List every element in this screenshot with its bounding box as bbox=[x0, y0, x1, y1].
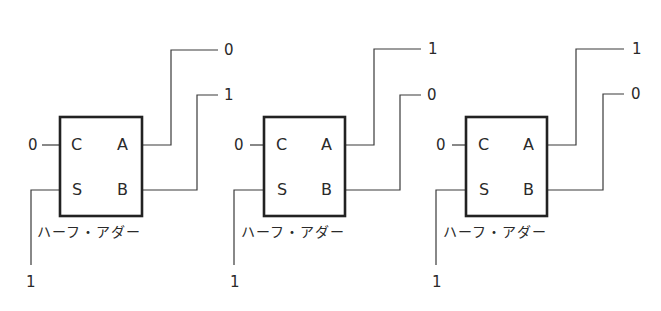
port-c-label: C bbox=[71, 137, 82, 153]
port-b-label: B bbox=[523, 182, 534, 198]
output-a-wire bbox=[548, 49, 624, 145]
output-b-value: 0 bbox=[427, 88, 437, 103]
output-b-wire bbox=[346, 95, 421, 190]
input-s-value: 1 bbox=[230, 275, 240, 290]
port-s-label: S bbox=[277, 182, 287, 198]
port-b-label: B bbox=[117, 182, 128, 198]
port-a-label: A bbox=[321, 137, 332, 153]
half-adder-box bbox=[60, 117, 142, 216]
port-s-label: S bbox=[72, 182, 82, 198]
port-a-label: A bbox=[523, 137, 534, 153]
port-c-label: C bbox=[478, 137, 489, 153]
diagram-canvas bbox=[0, 0, 661, 311]
port-s-label: S bbox=[479, 182, 489, 198]
input-c-value: 0 bbox=[28, 138, 38, 153]
input-s-value: 1 bbox=[26, 275, 36, 290]
output-b-value: 1 bbox=[224, 88, 234, 103]
half-adder-box bbox=[466, 117, 547, 216]
input-c-value: 0 bbox=[234, 138, 244, 153]
port-b-label: B bbox=[321, 182, 332, 198]
output-b-wire bbox=[143, 95, 218, 190]
output-a-wire bbox=[346, 49, 421, 145]
output-a-value: 0 bbox=[224, 43, 234, 58]
half-adder-caption: ハーフ・アダー bbox=[443, 224, 547, 240]
half-adder-box bbox=[264, 117, 345, 216]
output-a-wire bbox=[143, 50, 218, 145]
half-adder-caption: ハーフ・アダー bbox=[37, 224, 141, 240]
output-a-value: 1 bbox=[632, 42, 642, 57]
output-a-value: 1 bbox=[428, 42, 438, 57]
input-s-value: 1 bbox=[432, 275, 442, 290]
port-c-label: C bbox=[276, 137, 287, 153]
output-b-value: 0 bbox=[631, 87, 641, 102]
half-adder-caption: ハーフ・アダー bbox=[241, 224, 345, 240]
port-a-label: A bbox=[117, 137, 128, 153]
input-c-value: 0 bbox=[436, 138, 446, 153]
output-b-wire bbox=[548, 94, 624, 190]
